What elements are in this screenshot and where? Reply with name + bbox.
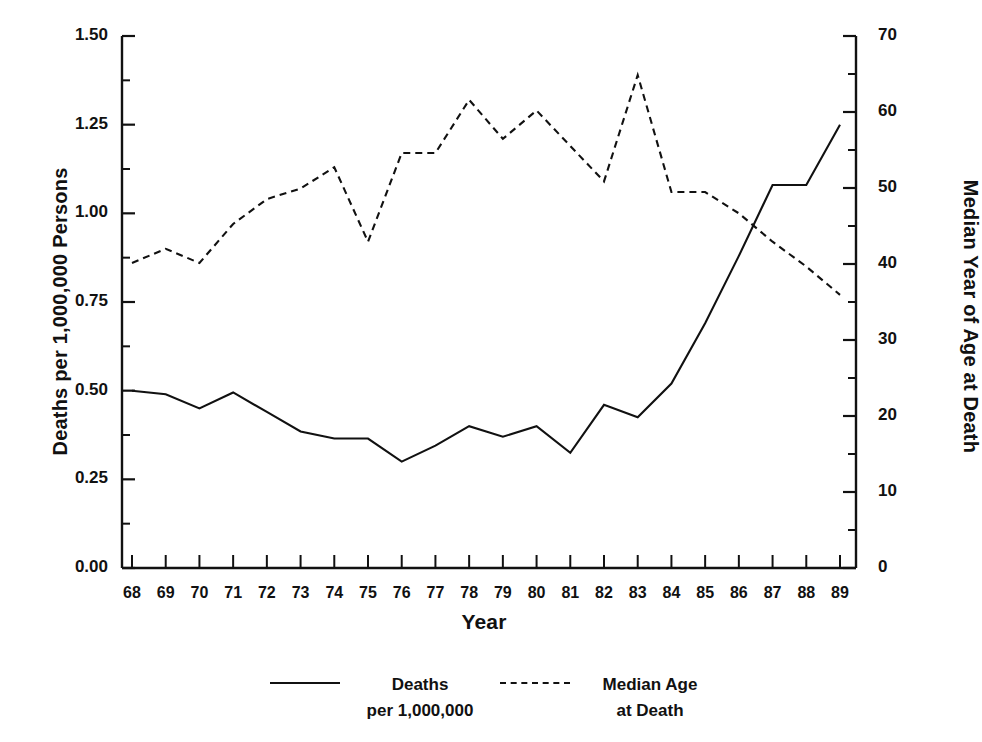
y-axis-left-tick-label: 0.50 bbox=[38, 380, 108, 400]
y-axis-left-tick-label: 0.25 bbox=[38, 468, 108, 488]
series-line-median-age bbox=[132, 75, 840, 295]
chart-legend: Deaths per 1,000,000 Median Age at Death bbox=[0, 660, 968, 740]
dashed-line-icon bbox=[500, 682, 570, 684]
legend-label-median-age: Median Age at Death bbox=[565, 672, 735, 723]
y-axis-right-tick-label: 60 bbox=[878, 101, 928, 121]
y-axis-right-tick-label: 10 bbox=[878, 481, 928, 501]
y-axis-left-tick-label: 0.00 bbox=[38, 557, 108, 577]
y-axis-right-tick-label: 20 bbox=[878, 405, 928, 425]
y-axis-right-tick-label: 40 bbox=[878, 253, 928, 273]
y-axis-right-ticks bbox=[843, 36, 856, 568]
y-axis-left-tick-label: 1.50 bbox=[38, 25, 108, 45]
x-axis-ticks bbox=[132, 555, 840, 568]
y-axis-right-tick-label: 0 bbox=[878, 557, 928, 577]
x-axis-tick-label: 89 bbox=[820, 584, 860, 602]
y-axis-right-tick-label: 30 bbox=[878, 329, 928, 349]
axis-lines bbox=[122, 36, 856, 568]
y-axis-left-tick-label: 1.25 bbox=[38, 114, 108, 134]
y-axis-right-tick-label: 50 bbox=[878, 177, 928, 197]
solid-line-icon bbox=[270, 682, 340, 684]
y-axis-left-tick-label: 1.00 bbox=[38, 202, 108, 222]
y-axis-right-tick-label: 70 bbox=[878, 25, 928, 45]
y-axis-left-ticks bbox=[122, 36, 135, 568]
series-line-deaths bbox=[132, 125, 840, 462]
legend-label-deaths: Deaths per 1,000,000 bbox=[335, 672, 505, 723]
y-axis-left-tick-label: 0.75 bbox=[38, 291, 108, 311]
